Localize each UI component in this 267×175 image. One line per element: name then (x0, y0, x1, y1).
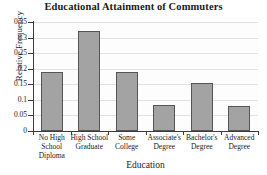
x-axis-category-label: High SchoolGraduate (69, 133, 111, 151)
x-axis-category-label: Associate'sDegree (144, 133, 186, 151)
gridline (33, 22, 258, 23)
bar (78, 31, 100, 131)
x-axis-category-label-line: Degree (181, 142, 223, 151)
y-axis-tick-label: 0.25 (1, 49, 27, 57)
bar (153, 105, 175, 131)
gridline (33, 115, 258, 116)
gridline (33, 84, 258, 85)
gridline (33, 100, 258, 101)
y-axis-tick (28, 53, 33, 54)
x-axis-category-label-line: College (106, 142, 148, 151)
y-axis-tick-label: 0.35 (1, 18, 27, 26)
gridline (33, 69, 258, 70)
x-axis-category-label-line: Some (106, 133, 148, 142)
x-axis-tick (33, 131, 34, 135)
y-axis-tick (28, 38, 33, 39)
y-axis-tick-label: 0 (1, 127, 27, 135)
chart-title: Educational Attainment of Commuters (0, 1, 267, 13)
y-axis-tick (28, 100, 33, 101)
x-axis-category-label: AdvancedDegree (219, 133, 261, 151)
y-axis-tick (28, 22, 33, 23)
x-axis-tick (258, 131, 259, 135)
y-axis-tick-label: 0.3 (1, 34, 27, 42)
x-axis-tick (71, 131, 72, 135)
y-axis-line (33, 21, 34, 132)
y-axis-tick-label: 0.1 (1, 96, 27, 104)
y-axis-tick (28, 69, 33, 70)
bar (191, 83, 213, 131)
x-axis-label: Education (33, 160, 258, 170)
x-axis-category-label-line: Associate's (144, 133, 186, 142)
x-axis-category-label-line: Advanced (219, 133, 261, 142)
x-axis-category-label-line: Bachelor's (181, 133, 223, 142)
x-axis-category-label: Bachelor'sDegree (181, 133, 223, 151)
bar (228, 106, 250, 131)
x-axis-category-label-line: School (31, 142, 73, 151)
x-axis-category-label: No HighSchoolDiploma (31, 133, 73, 161)
bar (41, 72, 63, 131)
bar (116, 72, 138, 131)
y-axis-tick (28, 84, 33, 85)
y-axis-tick-label: 0.15 (1, 80, 27, 88)
bar-chart-figure: Educational Attainment of Commuters Rela… (0, 0, 267, 175)
x-axis-tick (221, 131, 222, 135)
y-axis-tick-label: 0.2 (1, 65, 27, 73)
y-axis-tick (28, 115, 33, 116)
y-axis-tick-labels: 00.050.10.150.20.250.30.35 (0, 0, 27, 175)
gridline (33, 38, 258, 39)
y-axis-tick-label: 0.05 (1, 111, 27, 119)
x-axis-category-label-line: Degree (219, 142, 261, 151)
x-axis-category-label-line: Graduate (69, 142, 111, 151)
x-axis-category-label-line: Degree (144, 142, 186, 151)
x-axis-tick (146, 131, 147, 135)
plot-area (33, 22, 258, 131)
x-axis-tick (183, 131, 184, 135)
gridline (33, 53, 258, 54)
x-axis-tick (108, 131, 109, 135)
x-axis-category-label-line: No High (31, 133, 73, 142)
x-axis-category-label-line: High School (69, 133, 111, 142)
x-axis-category-label: SomeCollege (106, 133, 148, 151)
